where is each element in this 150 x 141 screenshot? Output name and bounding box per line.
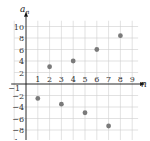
data-point xyxy=(83,110,88,115)
y-tick-label: 2 xyxy=(19,69,24,78)
y-tick-label: −6 xyxy=(12,115,24,124)
y-tick-label: −4 xyxy=(12,103,24,112)
x-tick-label: 7 xyxy=(106,75,111,84)
data-point xyxy=(118,33,123,38)
x-tick-label: 1 xyxy=(35,75,40,84)
y-axis-label-sub: n xyxy=(25,8,29,15)
y-axis-label: an xyxy=(20,4,29,15)
y-tick-label: 8 xyxy=(19,34,24,43)
x-tick-label: 4 xyxy=(71,75,76,84)
x-tick-label: 2 xyxy=(47,75,52,84)
x-axis-label: n xyxy=(141,79,147,89)
y-tick-label: 10 xyxy=(14,23,24,32)
data-point xyxy=(71,59,76,64)
x-tick-label: 3 xyxy=(59,75,64,84)
y-tick-label: −8 xyxy=(12,126,24,135)
scatter-chart: −1123456789 108642−2−4−6−8−10 n an xyxy=(0,0,150,140)
y-tick-label: 6 xyxy=(19,46,24,55)
x-tick-label: 9 xyxy=(130,75,135,84)
data-point xyxy=(59,102,64,107)
axes xyxy=(11,12,145,140)
data-point xyxy=(35,96,40,101)
y-tick-label: −2 xyxy=(12,92,24,101)
x-tick-label: 8 xyxy=(118,75,123,84)
data-point xyxy=(47,64,52,69)
x-tick-label: 6 xyxy=(94,75,99,84)
y-tick-label: 4 xyxy=(19,57,24,66)
x-tick-label: 5 xyxy=(82,75,87,84)
data-point xyxy=(106,124,111,129)
data-point xyxy=(94,47,99,52)
y-tick-label: −10 xyxy=(7,138,24,141)
y-tick-labels: 108642−2−4−6−8−10 xyxy=(7,23,24,141)
